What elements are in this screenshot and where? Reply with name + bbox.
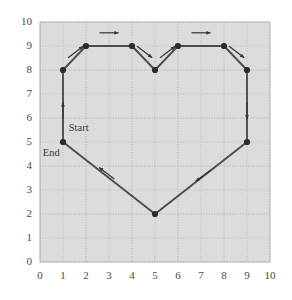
y-axis-tick-1: 1	[10, 232, 32, 243]
x-axis-tick-2: 2	[75, 270, 97, 281]
x-axis-tick-1: 1	[52, 270, 74, 281]
y-axis-tick-4: 4	[10, 160, 32, 171]
end-label: End	[43, 148, 60, 159]
x-axis-tick-7: 7	[190, 270, 212, 281]
x-axis-tick-10: 10	[259, 270, 281, 281]
y-axis-tick-5: 5	[10, 136, 32, 147]
y-axis-tick-9: 9	[10, 40, 32, 51]
x-axis-tick-6: 6	[167, 270, 189, 281]
y-axis-tick-3: 3	[10, 184, 32, 195]
y-axis-tick-0: 0	[10, 256, 32, 267]
y-axis-tick-6: 6	[10, 112, 32, 123]
start-label: Start	[69, 123, 89, 134]
y-axis-tick-10: 10	[10, 16, 32, 27]
x-axis-tick-0: 0	[29, 270, 51, 281]
x-axis-tick-9: 9	[236, 270, 258, 281]
heart-path-chart: 012345678910 012345678910 StartEnd	[0, 0, 292, 300]
y-axis-tick-8: 8	[10, 64, 32, 75]
y-axis-tick-2: 2	[10, 208, 32, 219]
y-axis-tick-7: 7	[10, 88, 32, 99]
x-axis-tick-8: 8	[213, 270, 235, 281]
x-axis-tick-3: 3	[98, 270, 120, 281]
x-axis-tick-4: 4	[121, 270, 143, 281]
x-axis-tick-5: 5	[144, 270, 166, 281]
